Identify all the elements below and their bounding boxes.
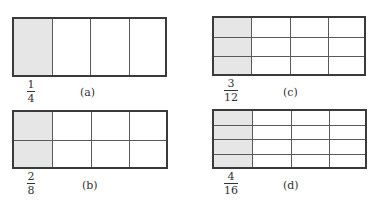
shaded-region (214, 18, 252, 74)
shaded-region (14, 19, 52, 75)
row-divider (214, 154, 365, 155)
row-divider (214, 125, 365, 126)
fraction-grid-a (12, 17, 167, 77)
column-divider (290, 18, 291, 74)
panel-label-b: (b) (82, 179, 98, 192)
fraction-label-c: 3 12 (219, 78, 243, 103)
fraction-label-b: 2 8 (19, 171, 43, 196)
numerator: 3 (219, 78, 243, 89)
denominator: 8 (19, 185, 43, 196)
row-divider (14, 140, 166, 141)
denominator: 12 (219, 92, 243, 103)
fraction-label-d: 4 16 (219, 171, 243, 196)
panel-label-a: (a) (80, 86, 95, 99)
numerator: 4 (219, 171, 243, 182)
denominator: 16 (219, 185, 243, 196)
column-divider (90, 19, 91, 75)
column-divider (251, 18, 252, 74)
fraction-grid-d (212, 109, 367, 169)
column-divider (52, 19, 53, 75)
fraction-grid-c (212, 16, 366, 76)
denominator: 4 (19, 93, 43, 104)
numerator: 1 (19, 79, 43, 90)
panel-label-c: (c) (283, 86, 298, 99)
column-divider (328, 18, 329, 74)
row-divider (214, 139, 365, 140)
column-divider (129, 19, 130, 75)
row-divider (214, 56, 364, 57)
numerator: 2 (19, 171, 43, 182)
fraction-grid-b (12, 110, 168, 169)
panel-label-d: (d) (283, 179, 299, 192)
fraction-label-a: 1 4 (19, 79, 43, 104)
row-divider (214, 37, 364, 38)
